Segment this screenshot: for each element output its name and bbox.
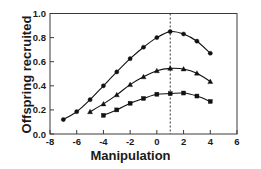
chart-figure: -8-6-4-20246 0.00.20.40.60.81.0 Manipula… <box>0 0 261 169</box>
data-point-triangle <box>128 82 133 87</box>
data-point-square <box>115 108 119 112</box>
data-point-circle <box>88 98 92 102</box>
x-tick-label: 4 <box>208 136 214 147</box>
x-tick-label: -8 <box>46 136 54 147</box>
data-point-circle <box>115 70 119 74</box>
y-tick-label: 0.0 <box>33 129 46 140</box>
series-line <box>63 31 210 119</box>
data-point-triangle <box>101 101 106 106</box>
data-point-circle <box>61 117 65 121</box>
series-line <box>90 68 210 112</box>
data-point-circle <box>101 84 105 88</box>
x-axis-ticks: -8-6-4-20246 <box>46 130 240 147</box>
data-point-triangle <box>141 74 146 79</box>
data-point-circle <box>168 29 172 33</box>
plot-frame <box>50 14 237 135</box>
data-point-square <box>128 101 132 105</box>
x-axis-label: Manipulation <box>0 148 261 163</box>
x-tick-label: 0 <box>154 136 159 147</box>
data-point-circle <box>208 51 212 55</box>
data-point-circle <box>128 57 132 61</box>
data-point-square <box>168 92 172 96</box>
x-tick-label: -4 <box>99 136 108 147</box>
data-point-circle <box>155 36 159 40</box>
data-point-square <box>182 91 186 95</box>
data-point-circle <box>195 39 199 43</box>
data-point-square <box>195 94 199 98</box>
data-point-square <box>142 96 146 100</box>
y-axis-ticks: 0.00.20.40.60.81.0 <box>33 8 54 140</box>
data-point-circle <box>181 32 185 36</box>
data-point-square <box>208 99 212 103</box>
series-upper-curve <box>61 29 212 121</box>
offspring-recruited-line-chart: -8-6-4-20246 0.00.20.40.60.81.0 <box>0 0 261 169</box>
y-tick-label: 0.4 <box>33 80 47 91</box>
data-point-circle <box>75 110 79 114</box>
data-point-square <box>155 92 159 96</box>
series-middle-curve <box>88 66 213 114</box>
data-point-triangle <box>88 109 93 114</box>
x-tick-label: 2 <box>181 136 186 147</box>
data-series-layer <box>61 29 213 121</box>
x-tick-label: -6 <box>72 136 80 147</box>
y-tick-label: 0.6 <box>33 56 46 67</box>
y-tick-label: 0.2 <box>33 104 46 115</box>
data-point-square <box>101 113 105 117</box>
y-axis-label: Offspring recruited <box>19 0 34 150</box>
y-tick-label: 1.0 <box>33 8 46 19</box>
x-tick-label: -2 <box>126 136 134 147</box>
y-tick-label: 0.8 <box>33 32 46 43</box>
x-tick-label: 6 <box>234 136 239 147</box>
data-point-circle <box>141 45 145 49</box>
